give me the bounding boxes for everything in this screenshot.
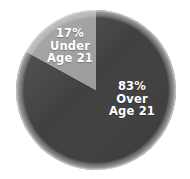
pie-rim-highlight — [16, 10, 176, 170]
pie-chart-svg — [0, 0, 190, 179]
pie-chart-figure: 17% Under Age 21 83% Over Age 21 — [0, 0, 190, 179]
